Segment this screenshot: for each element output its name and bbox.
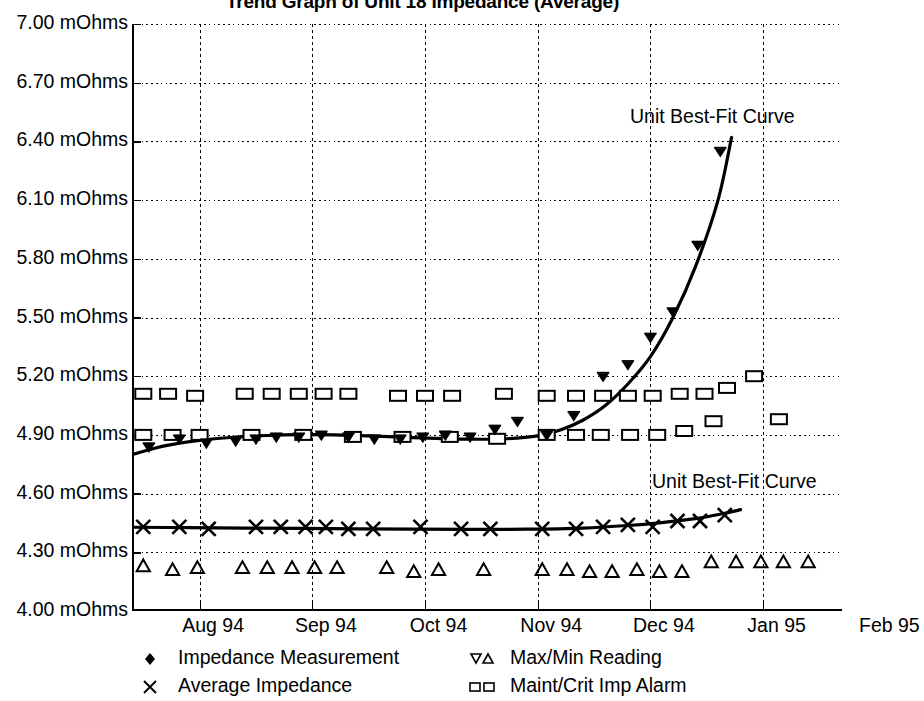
up-down-triangle-icon bbox=[464, 648, 500, 670]
y-tick-label: 4.90 mOhms bbox=[0, 422, 134, 445]
series-average bbox=[136, 508, 732, 536]
best-fit-curve-label: Unit Best-Fit Curve bbox=[630, 105, 795, 128]
y-tick-label: 5.50 mOhms bbox=[0, 305, 134, 328]
y-tick-label: 4.60 mOhms bbox=[0, 481, 134, 504]
y-tick-label: 4.30 mOhms bbox=[0, 539, 134, 562]
y-tick-label: 5.80 mOhms bbox=[0, 246, 134, 269]
chart-legend: Impedance MeasurementAverage ImpedanceMa… bbox=[0, 648, 845, 701]
double-square-icon bbox=[464, 676, 500, 698]
legend-label: Impedance Measurement bbox=[178, 646, 399, 669]
filled-diamond-icon bbox=[132, 648, 168, 670]
legend-label: Average Impedance bbox=[178, 674, 352, 697]
y-tick-label: 4.00 mOhms bbox=[0, 598, 134, 621]
x-tick-label: Oct 94 bbox=[379, 614, 499, 637]
x-tick-label: Feb 95 bbox=[829, 614, 924, 637]
x-tick-label: Sep 94 bbox=[266, 614, 386, 637]
y-tick-label: 6.40 mOhms bbox=[0, 128, 134, 151]
best-fit-curve-label: Unit Best-Fit Curve bbox=[652, 470, 817, 493]
y-tick-label: 7.00 mOhms bbox=[0, 11, 134, 34]
x-tick-label: Aug 94 bbox=[153, 614, 273, 637]
cross-x-icon bbox=[132, 676, 168, 698]
y-tick-label: 6.10 mOhms bbox=[0, 187, 134, 210]
legend-label: Maint/Crit Imp Alarm bbox=[510, 674, 687, 697]
legend-label: Max/Min Reading bbox=[510, 646, 662, 669]
y-tick-label: 6.70 mOhms bbox=[0, 70, 134, 93]
y-tick-label: 5.20 mOhms bbox=[0, 363, 134, 386]
series-alarm-upper bbox=[135, 371, 787, 424]
x-tick-label: Nov 94 bbox=[491, 614, 611, 637]
x-tick-label: Dec 94 bbox=[604, 614, 724, 637]
series-maxmin bbox=[137, 555, 815, 577]
x-tick-label: Jan 95 bbox=[717, 614, 837, 637]
series-impedance bbox=[143, 147, 727, 453]
